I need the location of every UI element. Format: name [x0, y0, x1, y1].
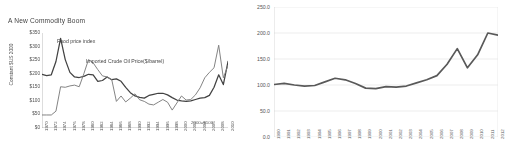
left-chart-x-tick: 2000	[183, 121, 188, 131]
right-chart-x-tick: 1994	[317, 129, 322, 139]
right-chart-x-tick: 2012	[500, 129, 505, 139]
right-chart-x-tick: 2010	[479, 129, 484, 139]
right-chart-x-tick: 1990	[276, 129, 281, 139]
left-chart-x-tick: 1974	[62, 121, 67, 131]
right-chart-x-tick: 1991	[286, 129, 291, 139]
left-chart-plot-area	[42, 33, 228, 128]
left-chart-svg	[42, 33, 228, 128]
right-chart-x-tick: 2000	[378, 129, 383, 139]
left-chart-x-tick: 1992	[146, 121, 151, 131]
right-chart-x-tick: 2004	[418, 129, 423, 139]
left-chart-x-tick: 1996	[165, 121, 170, 131]
right-chart-x-tick: 2005	[429, 129, 434, 139]
left-chart-x-tick: 1986	[118, 121, 123, 131]
left-chart-x-tick: 1984	[109, 121, 114, 131]
left-chart-label-crude-oil-price: Imported Crude Oil Price($/barrel)	[86, 58, 164, 64]
right-chart-x-tick: 1995	[327, 129, 332, 139]
right-chart-x-tick: 1998	[357, 129, 362, 139]
right-chart-x-tick: 2001	[388, 129, 393, 139]
left-chart-y-tick: $350	[14, 30, 40, 35]
left-chart-x-tick: 1980	[90, 121, 95, 131]
right-chart-plot-area	[274, 7, 498, 137]
right-chart-x-tick: 2006	[439, 129, 444, 139]
right-chart-x-tick: 2009	[469, 129, 474, 139]
right-chart-panel: 250.0200.0150.0100.050.00.0 199019911992…	[236, 0, 504, 165]
left-chart-x-tick: 2004	[202, 121, 207, 131]
left-chart-x-tick: 1998	[174, 121, 179, 131]
left-chart-x-axis-ticks: 1970197219741976197819801982198419861988…	[42, 131, 228, 165]
left-chart-series-food-price-index	[42, 38, 228, 101]
left-chart-x-tick: 1970	[44, 121, 49, 131]
left-chart-y-tick: $200	[14, 71, 40, 76]
right-chart-series-index	[274, 33, 498, 89]
left-chart-x-tick: 1988	[127, 121, 132, 131]
left-chart-y-tick: $50	[14, 111, 40, 116]
left-chart-x-tick: 2006	[211, 121, 216, 131]
left-chart-y-tick: $300	[14, 44, 40, 49]
right-chart-x-axis-ticks: 1990199119921993199419951996199719981999…	[274, 139, 498, 165]
right-chart-x-tick: 1993	[306, 129, 311, 139]
left-chart-y-axis-label: Constant $US 2000	[9, 30, 14, 100]
left-chart-y-tick: $150	[14, 84, 40, 89]
left-chart-label-food-price-index: Food price index	[57, 38, 95, 44]
right-chart-gridlines	[274, 7, 498, 137]
right-chart-x-tick: 1997	[347, 129, 352, 139]
right-chart-x-tick: 1996	[337, 129, 342, 139]
right-chart-y-axis-ticks: 250.0200.0150.0100.050.00.0	[236, 0, 270, 165]
right-chart-y-tick: 200.0	[238, 30, 270, 36]
left-chart-x-tick: 1994	[155, 121, 160, 131]
left-chart-series-imported-crude-oil-price	[42, 45, 228, 115]
right-chart-x-tick: 2007	[449, 129, 454, 139]
left-chart-y-tick: $0	[14, 125, 40, 130]
left-chart-x-tick: 1982	[99, 121, 104, 131]
right-chart-x-tick: 2008	[459, 129, 464, 139]
left-chart-x-tick: 2010	[230, 121, 235, 131]
right-chart-x-tick: 2002	[398, 129, 403, 139]
right-chart-x-tick: 2011	[490, 130, 495, 139]
left-chart-x-tick: 2002	[192, 121, 197, 131]
right-chart-x-tick: 2003	[408, 129, 413, 139]
right-chart-x-tick: 1999	[367, 129, 372, 139]
left-chart-x-tick: 1976	[72, 121, 77, 131]
left-chart-x-tick: 2008	[220, 121, 225, 131]
right-chart-y-tick: 100.0	[238, 82, 270, 88]
left-chart-y-axis-ticks: $350$300$250$200$150$100$50$0	[14, 0, 40, 165]
right-chart-y-tick: 0.0	[238, 134, 270, 140]
left-chart-y-tick: $100	[14, 98, 40, 103]
left-chart-y-tick: $250	[14, 57, 40, 62]
right-chart-x-tick: 1992	[296, 129, 301, 139]
right-chart-svg	[274, 7, 498, 137]
right-chart-y-tick: 250.0	[238, 4, 270, 10]
left-chart-panel: A New Commodity Boom Constant $US 2000 $…	[0, 0, 236, 165]
left-chart-x-tick: 1972	[53, 121, 58, 131]
left-chart-x-tick: 1978	[81, 121, 86, 131]
left-chart-x-tick: 1990	[137, 121, 142, 131]
right-chart-y-tick: 150.0	[238, 56, 270, 62]
right-chart-y-tick: 50.0	[238, 108, 270, 114]
